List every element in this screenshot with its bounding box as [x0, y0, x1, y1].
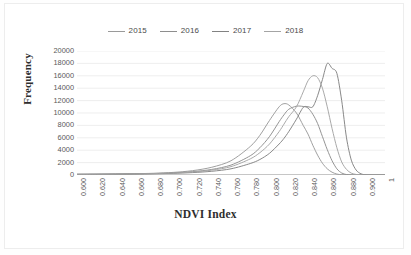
y-tick-label: 0	[70, 171, 74, 178]
chart-legend: 2015201620172018	[0, 24, 411, 38]
y-tick-label: 14000	[53, 84, 74, 91]
y-tick-label: 18000	[53, 60, 74, 67]
series-line-2017	[77, 63, 385, 175]
legend-label: 2018	[285, 27, 303, 35]
y-tick-label: 4000	[58, 146, 74, 153]
legend-item-2017[interactable]: 2017	[212, 27, 251, 35]
legend-swatch-icon	[212, 31, 229, 32]
x-tick-label: 0.680	[157, 178, 164, 196]
y-tick-label: 16000	[53, 72, 74, 79]
y-tick-label: 12000	[53, 97, 74, 104]
x-tick-label: 0.620	[99, 178, 106, 196]
x-tick-label: 0.880	[350, 178, 357, 196]
x-tick-label: 0.700	[176, 178, 183, 196]
series-line-2015	[77, 104, 385, 175]
y-tick-label: 20000	[53, 47, 74, 54]
x-tick-label: 0.720	[196, 178, 203, 196]
y-tick-label: 6000	[58, 134, 74, 141]
chart-svg	[77, 51, 385, 175]
x-axis-title: NDVI Index	[0, 208, 411, 220]
x-tick-label: 0.840	[311, 178, 318, 196]
y-tick-label: 8000	[58, 122, 74, 129]
x-tick-label: 1	[388, 178, 395, 182]
y-tick-label: 10000	[53, 109, 74, 116]
x-tick-label: 0.660	[138, 178, 145, 196]
legend-label: 2017	[233, 27, 251, 35]
x-tick-label: 0.860	[330, 178, 337, 196]
plot-area	[77, 51, 385, 175]
legend-item-2018[interactable]: 2018	[264, 27, 303, 35]
x-tick-label: 0.600	[80, 178, 87, 196]
legend-swatch-icon	[264, 31, 281, 32]
y-axis-tick-labels: 0200040006000800010000120001400016000180…	[36, 45, 74, 181]
x-tick-label: 0.640	[119, 178, 126, 196]
legend-label: 2015	[129, 27, 147, 35]
y-axis-title: Frequency	[21, 37, 35, 121]
x-tick-label: 0.780	[253, 178, 260, 196]
legend-swatch-icon	[108, 31, 125, 32]
series-line-2016	[77, 106, 385, 175]
x-tick-label: 0.760	[234, 178, 241, 196]
chart-figure: 2015201620172018 Frequency 0200040006000…	[0, 0, 411, 255]
legend-item-2016[interactable]: 2016	[160, 27, 199, 35]
x-axis-tick-labels: 0.6000.6200.6400.6600.6800.7000.7200.740…	[77, 176, 385, 206]
x-tick-label: 0.800	[273, 178, 280, 196]
x-tick-label: 0.820	[292, 178, 299, 196]
x-tick-label: 0.740	[215, 178, 222, 196]
x-tick-label: 0.900	[369, 178, 376, 196]
legend-item-2015[interactable]: 2015	[108, 27, 147, 35]
legend-label: 2016	[181, 27, 199, 35]
legend-swatch-icon	[160, 31, 177, 32]
y-tick-label: 2000	[58, 159, 74, 166]
